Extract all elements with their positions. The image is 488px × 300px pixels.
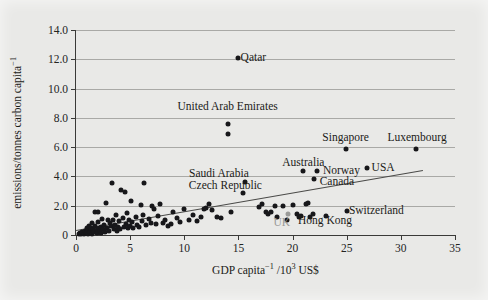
y-axis-title: emissions/tonnes carbon capita−1 <box>8 30 24 235</box>
data-point <box>260 201 265 206</box>
y-axis-line <box>75 30 76 235</box>
data-point <box>182 207 187 212</box>
y-tick-label-0: 0 <box>62 229 68 241</box>
x-tick-label-10: 10 <box>179 242 191 254</box>
annotation-luxembourg: Luxembourg <box>387 132 446 144</box>
annotation-canada: Canada <box>320 177 354 189</box>
annotation-qatar: Qatar <box>241 52 267 64</box>
x-axis-line <box>75 235 455 236</box>
data-point-singapore <box>343 147 348 152</box>
data-point <box>124 211 129 216</box>
y-tick-8 <box>71 118 76 119</box>
data-point-norway <box>315 169 320 174</box>
data-point <box>210 208 215 213</box>
x-tick-10 <box>184 235 185 240</box>
data-point <box>133 214 138 219</box>
data-point <box>169 221 174 226</box>
gridline-y-10 <box>76 89 455 90</box>
data-point <box>158 202 163 207</box>
x-tick-label-0: 0 <box>73 242 79 254</box>
x-tick-15 <box>238 235 239 240</box>
y-tick-label-12: 12.0 <box>48 53 68 65</box>
data-point-usa <box>365 165 370 170</box>
data-point <box>177 219 182 224</box>
data-point <box>280 204 285 209</box>
data-point <box>148 220 153 225</box>
data-point <box>104 200 109 205</box>
plot-area: 02.04.06.08.010.012.014.0 05101520253035… <box>76 30 455 235</box>
y-tick-2 <box>71 206 76 207</box>
x-tick-label-35: 35 <box>449 242 461 254</box>
y-tick-12 <box>71 59 76 60</box>
data-point <box>228 209 233 214</box>
data-point <box>138 202 143 207</box>
y-tick-14 <box>71 30 76 31</box>
data-point <box>109 181 114 186</box>
gridline-y-14 <box>76 30 455 31</box>
annotation-switzerland: Switzerland <box>349 205 404 217</box>
x-tick-30 <box>401 235 402 240</box>
gridline-y-6 <box>76 147 455 148</box>
x-tick-label-15: 15 <box>233 242 245 254</box>
y-tick-10 <box>71 89 76 90</box>
data-point <box>162 218 167 223</box>
data-point <box>219 216 224 221</box>
figure-scatter-emissions-vs-gdp: emissions/tonnes carbon capita−1 02.04.0… <box>0 0 488 300</box>
y-tick-label-10: 10.0 <box>48 83 68 95</box>
x-tick-label-20: 20 <box>287 242 299 254</box>
x-tick-label-25: 25 <box>341 242 353 254</box>
annotation-uk: UK <box>273 217 290 229</box>
x-tick-5 <box>130 235 131 240</box>
y-tick-label-8: 8.0 <box>54 112 68 124</box>
data-point <box>290 202 295 207</box>
data-point <box>141 212 146 217</box>
annotation-australia: Australia <box>282 157 324 169</box>
x-tick-label-5: 5 <box>127 242 133 254</box>
x-tick-label-30: 30 <box>395 242 407 254</box>
data-point <box>268 210 273 215</box>
data-point <box>186 217 191 222</box>
data-point <box>99 216 104 221</box>
data-point-united-arab-emirates-2 <box>225 131 230 136</box>
y-tick-6 <box>71 147 76 148</box>
data-point <box>142 181 147 186</box>
data-point <box>114 213 119 218</box>
data-point <box>95 210 100 215</box>
data-point <box>198 215 203 220</box>
data-point <box>120 216 125 221</box>
data-point <box>129 199 134 204</box>
annotation-hong-kong: Hong Kong <box>298 215 352 227</box>
y-tick-label-14: 14.0 <box>48 24 68 36</box>
data-point <box>136 224 141 229</box>
gridline-y-8 <box>76 118 455 119</box>
data-point <box>171 209 176 214</box>
data-point <box>154 222 159 227</box>
data-point-united-arab-emirates <box>225 121 230 126</box>
y-tick-4 <box>71 176 76 177</box>
y-tick-label-2: 2.0 <box>54 200 68 212</box>
x-axis-title: GDP capita−1 /103 US$ <box>76 262 455 276</box>
data-point <box>207 201 212 206</box>
data-point <box>156 213 161 218</box>
y-tick-label-6: 6.0 <box>54 141 68 153</box>
data-point <box>203 205 208 210</box>
data-point <box>151 207 156 212</box>
data-point <box>305 200 310 205</box>
annotation-singapore: Singapore <box>322 133 369 145</box>
gridline-y-4 <box>76 176 455 177</box>
annotation-czech-republic: Czech Republic <box>189 180 262 192</box>
annotation-united-arab-emirates: United Arab Emirates <box>177 101 277 113</box>
data-point-luxembourg <box>414 147 419 152</box>
y-tick-label-4: 4.0 <box>54 170 68 182</box>
annotation-usa: USA <box>372 162 395 174</box>
data-point <box>190 212 195 217</box>
data-point-australia <box>301 169 306 174</box>
data-point-canada <box>312 176 317 181</box>
x-tick-25 <box>347 235 348 240</box>
data-point <box>122 189 127 194</box>
data-point <box>273 204 278 209</box>
x-tick-35 <box>455 235 456 240</box>
x-tick-20 <box>293 235 294 240</box>
